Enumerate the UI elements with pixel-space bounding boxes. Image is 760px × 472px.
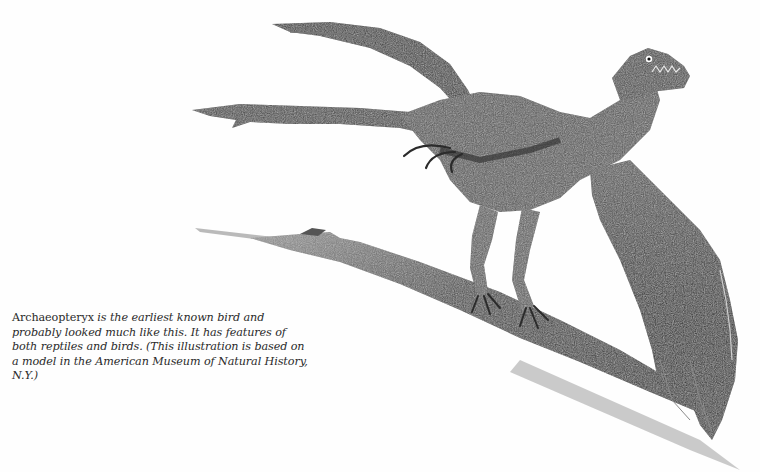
figure-caption: Archaeopteryx is the earliest known bird…: [12, 311, 312, 384]
upper-wing: [272, 22, 475, 110]
archaeopteryx-illustration: [0, 0, 760, 472]
book-page: Archaeopteryx is the earliest known bird…: [0, 0, 760, 472]
right-leg: [512, 208, 540, 312]
caption-species-name: Archaeopteryx: [12, 311, 94, 324]
right-wing: [590, 160, 738, 440]
